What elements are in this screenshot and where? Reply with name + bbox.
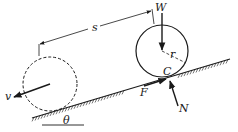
velocity-arrow — [14, 84, 50, 97]
label-W: W — [155, 1, 168, 14]
label-s: s — [92, 21, 98, 34]
label-r: r — [170, 48, 176, 61]
incline-surface — [32, 59, 230, 121]
normal-arrow — [170, 81, 178, 106]
rolling-wheel-incline-diagram: θ v s r W C F N — [0, 0, 238, 132]
label-v: v — [5, 90, 12, 103]
label-F: F — [139, 86, 148, 99]
label-C: C — [163, 65, 172, 78]
friction-arrow — [144, 79, 166, 86]
label-theta: θ — [63, 114, 70, 127]
label-N: N — [178, 102, 189, 115]
